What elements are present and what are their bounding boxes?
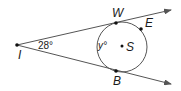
angle-label-y: y° xyxy=(97,40,107,51)
label-W: W xyxy=(112,6,125,20)
angle-label-28: 28° xyxy=(38,40,53,51)
label-S: S xyxy=(126,40,134,54)
label-I: I xyxy=(18,48,22,62)
point-W xyxy=(114,21,118,25)
point-S xyxy=(121,45,124,48)
label-E: E xyxy=(145,16,154,30)
point-B xyxy=(114,69,118,73)
point-E xyxy=(139,27,143,31)
geometry-diagram: I W E S B 28° y° xyxy=(0,0,181,91)
point-I xyxy=(15,43,19,47)
label-B: B xyxy=(113,74,121,88)
